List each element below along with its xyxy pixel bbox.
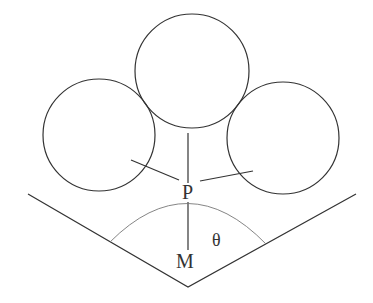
- label-p: P: [182, 181, 193, 203]
- v-groove: [28, 194, 356, 287]
- label-m: M: [176, 250, 194, 272]
- diagram-canvas: P M θ: [0, 0, 373, 303]
- left-circle: [43, 79, 155, 191]
- right-circle: [227, 82, 339, 194]
- top-circle: [135, 14, 249, 128]
- line-p-to-left: [131, 160, 179, 180]
- label-theta: θ: [212, 230, 221, 250]
